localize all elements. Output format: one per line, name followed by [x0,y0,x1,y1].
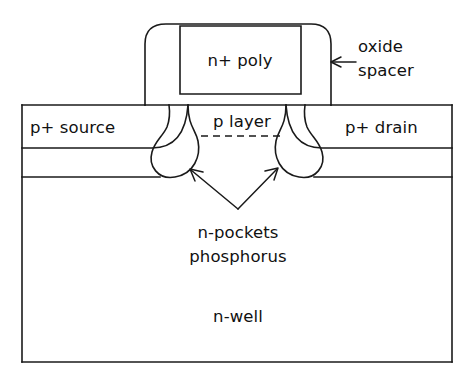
n-pockets-arrow-left-shaft [191,170,238,209]
n-pockets-arrows [190,168,278,209]
cross-section-drawing: n+ poly oxide spacer p+ source p+ drain … [0,0,475,385]
n-pocket-right [275,105,323,177]
source-label: p+ source [30,118,115,137]
n-pockets-label-line1: n-pockets [197,223,278,242]
n-pocket-left-outline [151,105,199,177]
p-layer-label: p layer [213,112,271,131]
drain-label: p+ drain [345,118,418,137]
oxide-spacer-arrow [331,57,356,67]
n-pockets-label-line2: phosphorus [189,247,287,266]
n-pocket-right-outline [275,105,323,177]
oxide-spacer-label-line1: oxide [358,37,403,56]
gate-label: n+ poly [207,51,272,70]
device-cross-section-diagram: n+ poly oxide spacer p+ source p+ drain … [0,0,475,385]
n-pockets-arrow-right-shaft [238,169,277,209]
n-well-label: n-well [213,307,263,326]
n-pocket-left [151,105,199,177]
oxide-spacer-label-line2: spacer [358,61,414,80]
